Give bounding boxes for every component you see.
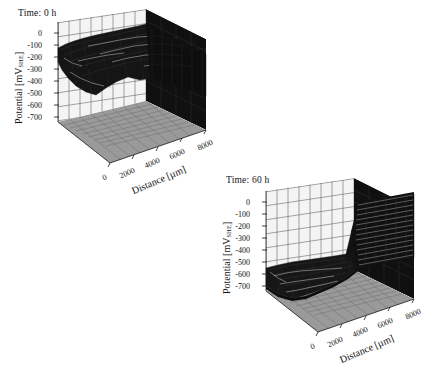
panel-60h-surface-plot	[208, 172, 440, 372]
panel-60h: Time: 60 h Potential [mVSHE] 0 -100 -200…	[208, 172, 440, 372]
panel-60h-steep-face	[351, 192, 414, 266]
panel-0h-surface-plot	[0, 0, 232, 200]
panel-0h: Time: 0 h Potential [mVSHE] 0 -100 -200 …	[0, 0, 232, 200]
